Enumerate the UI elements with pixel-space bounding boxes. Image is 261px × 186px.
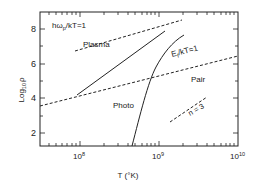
x-axis-title: T (°K) (118, 171, 139, 180)
plasma-frequency-label: hωp/kT=1 (52, 21, 87, 31)
x-tick-1e9: 109 (152, 151, 164, 161)
x-tick-1e10: 1010 (230, 151, 245, 161)
fermi-energy-label: Ef/kT=1 (170, 44, 199, 60)
x-axis-ticks (49, 12, 234, 146)
y-tick-2: 2 (31, 128, 36, 138)
pair-region-label: Pair (191, 75, 206, 84)
y-tick-6: 6 (31, 59, 36, 69)
photo-region-label: Photo (113, 101, 134, 110)
y-tick-8: 8 (31, 24, 36, 34)
photo-pair-boundary-curve (132, 35, 184, 146)
x-tick-1e8: 108 (73, 151, 85, 161)
y-axis-title: Log10ρ (17, 77, 27, 102)
plasma-region-label: Plasma (83, 40, 110, 49)
y-tick-4: 4 (31, 93, 36, 103)
n3-label: n = 3 (187, 101, 206, 117)
fermi-energy-dashed-line (40, 56, 238, 106)
phase-diagram-chart: 8 6 4 2 108 109 1010 T (°K) Log10ρ hωp/k… (0, 0, 261, 186)
